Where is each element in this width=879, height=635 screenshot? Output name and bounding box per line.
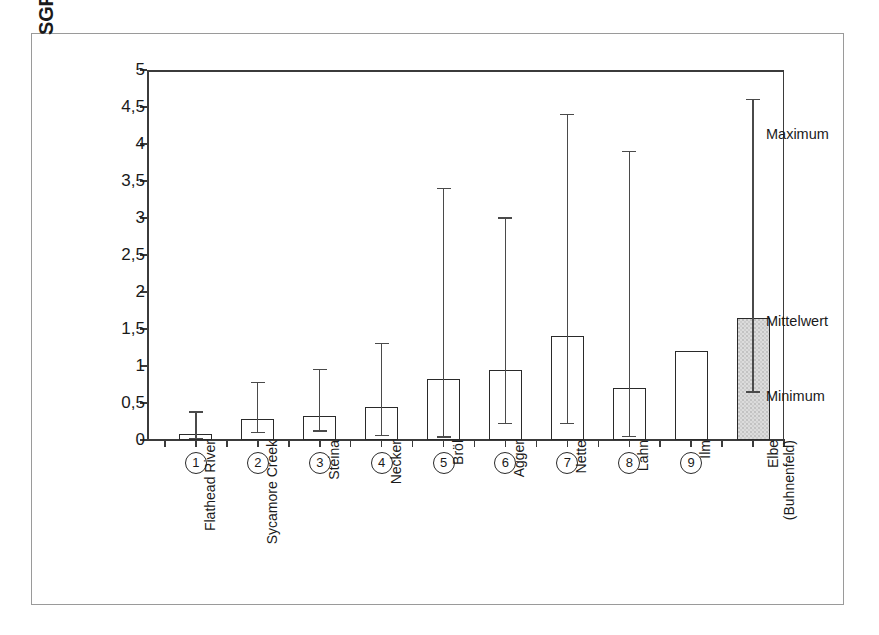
whisker-cap-min-5 bbox=[437, 436, 451, 437]
whisker-cap-max-10 bbox=[746, 99, 760, 100]
whisker-cap-max-6 bbox=[498, 217, 512, 218]
x-tick bbox=[536, 439, 538, 447]
whisker-cap-min-8 bbox=[622, 436, 636, 437]
whisker-cap-max-5 bbox=[437, 188, 451, 189]
category-label-8: Lahn bbox=[635, 440, 651, 580]
whisker-cap-min-6 bbox=[498, 423, 512, 424]
x-tick bbox=[752, 439, 754, 447]
whisker-cap-max-3 bbox=[313, 369, 327, 370]
y-tick-label: 1 bbox=[85, 357, 145, 374]
whisker-line-4 bbox=[381, 344, 382, 436]
whisker-line-8 bbox=[629, 151, 630, 436]
annotation-maximum: Maximum bbox=[766, 126, 829, 142]
whisker-line-6 bbox=[505, 218, 506, 424]
x-tick bbox=[288, 439, 290, 447]
annotation-minimum: Minimum bbox=[766, 388, 825, 404]
x-tick bbox=[412, 439, 414, 447]
whisker-line-10 bbox=[752, 100, 753, 392]
whisker-cap-min-4 bbox=[375, 435, 389, 436]
whisker-cap-max-4 bbox=[375, 343, 389, 344]
category-label-10: Elbe(Buhnenfeld) bbox=[765, 440, 797, 580]
category-label-9: Ilm bbox=[697, 440, 713, 580]
whisker-cap-max-1 bbox=[189, 411, 203, 412]
x-tick bbox=[505, 439, 507, 447]
category-label-3: Steina bbox=[326, 440, 342, 580]
whisker-line-7 bbox=[567, 114, 568, 423]
x-tick bbox=[381, 439, 383, 447]
whisker-line-5 bbox=[443, 188, 444, 437]
y-axis-title: SGR [mg/(dm3·h) O2] bbox=[24, 0, 58, 129]
y-tick-label: 3,5 bbox=[85, 172, 145, 189]
whisker-cap-min-1 bbox=[189, 438, 203, 439]
figure-frame: SGR [mg/(dm3·h) O2] 00,511,522,533,544,5… bbox=[31, 33, 844, 605]
whisker-cap-max-7 bbox=[560, 114, 574, 115]
x-tick bbox=[319, 439, 321, 447]
y-tick-label: 3 bbox=[85, 209, 145, 226]
y-tick-label: 1,5 bbox=[85, 320, 145, 337]
bar-9 bbox=[675, 351, 708, 440]
category-label-1: Flathead River bbox=[202, 440, 218, 580]
category-label-5: Bröl bbox=[450, 440, 466, 580]
x-tick bbox=[690, 439, 692, 447]
y-tick-label: 2 bbox=[85, 283, 145, 300]
whisker-line-1 bbox=[195, 412, 196, 439]
x-tick bbox=[350, 439, 352, 447]
annotation-mittelwert: Mittelwert bbox=[766, 313, 828, 329]
x-tick bbox=[721, 439, 723, 447]
whisker-cap-min-7 bbox=[560, 423, 574, 424]
y-tick-label: 0 bbox=[85, 431, 145, 448]
y-tick-label: 5 bbox=[85, 61, 145, 78]
category-label-4: Necker bbox=[388, 440, 404, 580]
x-tick bbox=[629, 439, 631, 447]
category-label-2: Sycamore Creek bbox=[264, 440, 280, 580]
axis-top-line bbox=[147, 70, 784, 72]
x-tick bbox=[443, 439, 445, 447]
whisker-line-3 bbox=[319, 370, 320, 431]
category-label-7: Nette bbox=[573, 440, 589, 580]
whisker-cap-max-8 bbox=[622, 151, 636, 152]
x-tick bbox=[164, 439, 166, 447]
x-tick bbox=[659, 439, 661, 447]
x-tick bbox=[474, 439, 476, 447]
x-tick bbox=[226, 439, 228, 447]
whisker-cap-max-2 bbox=[251, 382, 265, 383]
x-tick bbox=[598, 439, 600, 447]
category-label-6: Agger bbox=[511, 440, 527, 580]
y-axis-line bbox=[147, 70, 149, 440]
y-tick-label: 0,5 bbox=[85, 394, 145, 411]
y-tick-label: 4,5 bbox=[85, 98, 145, 115]
x-tick bbox=[257, 439, 259, 447]
plot-area: 00,511,522,533,544,55 bbox=[147, 70, 784, 440]
x-tick bbox=[195, 439, 197, 447]
whisker-cap-min-3 bbox=[313, 430, 327, 431]
y-tick-label: 4 bbox=[85, 135, 145, 152]
whisker-line-2 bbox=[257, 382, 258, 432]
y-tick-label: 2,5 bbox=[85, 246, 145, 263]
x-tick bbox=[567, 439, 569, 447]
whisker-cap-min-2 bbox=[251, 432, 265, 433]
whisker-cap-min-10 bbox=[746, 391, 760, 392]
